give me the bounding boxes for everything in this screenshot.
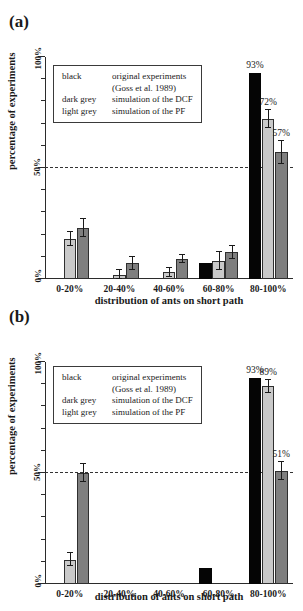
error-bar xyxy=(132,257,133,270)
bar[interactable] xyxy=(249,378,262,584)
panel-a: (a) percentage of experiments 0%50%100%0… xyxy=(0,0,303,305)
legend-key: dark grey xyxy=(62,94,112,106)
panel-a-y-axis-title: percentage of experiments xyxy=(6,52,17,170)
y-axis-tick-label: 100% xyxy=(32,47,42,70)
error-bar xyxy=(83,219,84,237)
legend-row: (Goss et al. 1989) xyxy=(62,83,193,95)
bar-value-label: 93% xyxy=(246,60,263,70)
y-axis-tick-label: 0% xyxy=(32,574,42,588)
error-bar-cap-bottom xyxy=(80,481,86,482)
panel-a-label: (a) xyxy=(9,12,29,32)
error-bar-cap-bottom xyxy=(80,236,86,237)
error-bar-cap-top xyxy=(265,379,271,380)
panel-b-x-axis-title: distribution of ants on short path xyxy=(45,591,293,602)
x-axis-tick-label: 80-100% xyxy=(250,284,286,294)
error-bar-cap-top xyxy=(278,140,284,141)
error-bar-cap-bottom xyxy=(265,392,271,393)
error-bar-cap-bottom xyxy=(278,479,284,480)
error-bar-cap-top xyxy=(67,231,73,232)
error-bar-cap-top xyxy=(129,256,135,257)
bar-group: 93%89%51%80-100% xyxy=(243,362,293,584)
error-bar-cap-bottom xyxy=(129,269,135,270)
y-axis-tick-label: 100% xyxy=(32,352,42,375)
legend-desc: (Goss et al. 1989) xyxy=(112,384,193,396)
error-bar xyxy=(281,462,282,480)
bar-value-label: 51% xyxy=(273,449,290,459)
error-bar xyxy=(268,380,269,393)
y-axis-tick-label: 0% xyxy=(32,269,42,283)
legend-row: light grey simulation of the PF xyxy=(62,106,193,118)
bar[interactable] xyxy=(262,386,275,584)
error-bar-cap-top xyxy=(80,218,86,219)
error-bar-cap-top xyxy=(278,461,284,462)
error-bar-cap-top xyxy=(265,109,271,110)
bar[interactable] xyxy=(199,568,212,584)
x-axis-tick-label: 60-80% xyxy=(203,284,235,294)
legend-desc: simulation of the PF xyxy=(112,407,193,419)
error-bar xyxy=(268,110,269,128)
bar[interactable] xyxy=(199,263,212,279)
legend-row: light grey simulation of the PF xyxy=(62,407,193,419)
panel-b-label: (b) xyxy=(9,307,30,327)
error-bar xyxy=(70,553,71,566)
error-bar-cap-bottom xyxy=(67,245,73,246)
bar-group: 93%72%57%80-100% xyxy=(243,57,293,279)
legend-key xyxy=(62,384,112,396)
x-axis-tick-label: 20-40% xyxy=(104,284,136,294)
error-bar xyxy=(232,246,233,259)
error-bar-cap-top xyxy=(179,254,185,255)
panel-b-legend: black original experiments (Goss et al. … xyxy=(53,366,202,424)
legend-row: black original experiments xyxy=(62,372,193,384)
legend-row: dark grey simulation of the DCF xyxy=(62,94,193,106)
bar-value-label: 72% xyxy=(259,97,276,107)
legend-desc: original experiments xyxy=(112,71,193,83)
error-bar-cap-top xyxy=(67,552,73,553)
bar-value-label: 57% xyxy=(273,128,290,138)
error-bar-cap-bottom xyxy=(166,276,172,277)
error-bar-cap-bottom xyxy=(229,258,235,259)
x-axis-tick-label: 40-60% xyxy=(153,284,185,294)
legend-key: light grey xyxy=(62,407,112,419)
error-bar-cap-top xyxy=(166,267,172,268)
legend-desc: original experiments xyxy=(112,372,193,384)
error-bar xyxy=(83,464,84,482)
error-bar xyxy=(70,232,71,245)
error-bar-cap-top xyxy=(216,251,222,252)
legend-desc: simulation of the PF xyxy=(112,106,193,118)
error-bar-cap-top xyxy=(80,463,86,464)
error-bar-cap-bottom xyxy=(116,278,122,279)
legend-row: dark grey simulation of the DCF xyxy=(62,395,193,407)
error-bar-cap-bottom xyxy=(67,565,73,566)
bar[interactable] xyxy=(275,152,288,279)
legend-key: dark grey xyxy=(62,395,112,407)
error-bar-cap-top xyxy=(229,245,235,246)
y-axis-tick-label: 50% xyxy=(32,158,42,176)
legend-desc: simulation of the DCF xyxy=(112,94,193,106)
bar[interactable] xyxy=(262,119,275,279)
legend-row: black original experiments xyxy=(62,71,193,83)
legend-row: (Goss et al. 1989) xyxy=(62,384,193,396)
bar-value-label: 89% xyxy=(259,367,276,377)
panel-b: (b) percentage of experiments 0%50%100%0… xyxy=(0,305,303,610)
x-axis-tick-label: 0-20% xyxy=(56,284,83,294)
legend-desc: (Goss et al. 1989) xyxy=(112,83,193,95)
legend-key: black xyxy=(62,71,112,83)
legend-key xyxy=(62,83,112,95)
y-axis-tick-label: 50% xyxy=(32,463,42,481)
error-bar-cap-bottom xyxy=(179,262,185,263)
error-bar xyxy=(281,141,282,163)
panel-b-y-axis-title: percentage of experiments xyxy=(6,357,17,475)
error-bar-cap-bottom xyxy=(216,269,222,270)
error-bar-cap-top xyxy=(116,269,122,270)
panel-a-legend: black original experiments (Goss et al. … xyxy=(53,65,202,123)
error-bar xyxy=(219,252,220,270)
legend-key: light grey xyxy=(62,106,112,118)
legend-key: black xyxy=(62,372,112,384)
bar[interactable] xyxy=(77,473,90,584)
bar[interactable] xyxy=(275,471,288,584)
error-bar-cap-bottom xyxy=(278,163,284,164)
legend-desc: simulation of the DCF xyxy=(112,395,193,407)
error-bar-cap-bottom xyxy=(265,127,271,128)
